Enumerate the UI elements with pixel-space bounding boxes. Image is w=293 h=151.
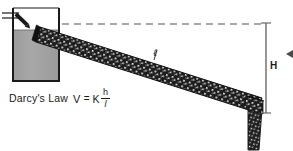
length-leader-tick — [154, 50, 157, 60]
diagram-canvas — [0, 0, 293, 151]
edge-arrowhead-marker — [286, 50, 293, 58]
sand-filled-tube — [32, 25, 264, 150]
darcys-law-figure: Darcy's Law V = K h l H ℓ — [0, 0, 293, 151]
head-dimension-line — [261, 23, 271, 113]
inflow-arrow — [2, 13, 30, 29]
tube-barrel — [36, 27, 262, 113]
